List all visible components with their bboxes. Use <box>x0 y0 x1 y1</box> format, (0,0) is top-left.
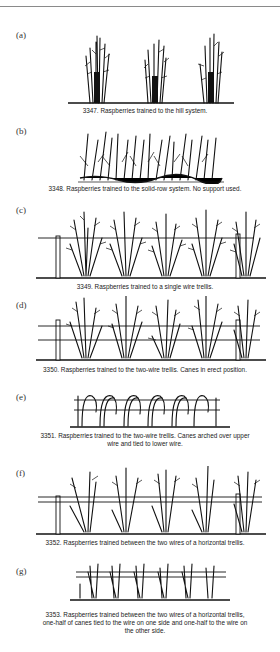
figure-caption-e: 3351. Raspberries trained to the two-wir… <box>40 432 250 448</box>
figure-label-g: (g) <box>16 566 27 576</box>
figure-e-two-wire-trellis-arched <box>70 392 230 430</box>
figure-caption-a: 3347. Raspberries trained to the hill sy… <box>40 107 250 115</box>
figure-d-two-wire-trellis-erect <box>36 296 266 364</box>
figure-caption-g: 3353. Raspberries trained between the tw… <box>40 611 250 635</box>
figure-label-b: (b) <box>16 126 27 136</box>
figure-caption-d: 3350. Raspberries trained to the two-wir… <box>40 366 250 374</box>
figure-c-single-wire-trellis <box>36 204 266 282</box>
figure-f-horizontal-trellis <box>36 466 266 538</box>
figure-g-horizontal-trellis-split <box>70 562 230 604</box>
figure-label-e: (e) <box>16 392 26 402</box>
figure-b-solid-row <box>78 126 224 184</box>
figure-a-hill-system <box>60 32 240 106</box>
figure-caption-c: 3349. Raspberries trained to a single wi… <box>40 283 250 291</box>
figure-label-d: (d) <box>16 300 27 310</box>
figure-label-c: (c) <box>16 205 26 215</box>
figure-label-f: (f) <box>16 468 25 478</box>
figure-label-a: (a) <box>16 30 26 40</box>
figure-caption-f: 3352. Raspberries trained between the tw… <box>40 539 250 547</box>
figure-caption-b: 3348. Raspberries trained to the solid-r… <box>40 185 250 193</box>
header-rule <box>0 6 280 7</box>
